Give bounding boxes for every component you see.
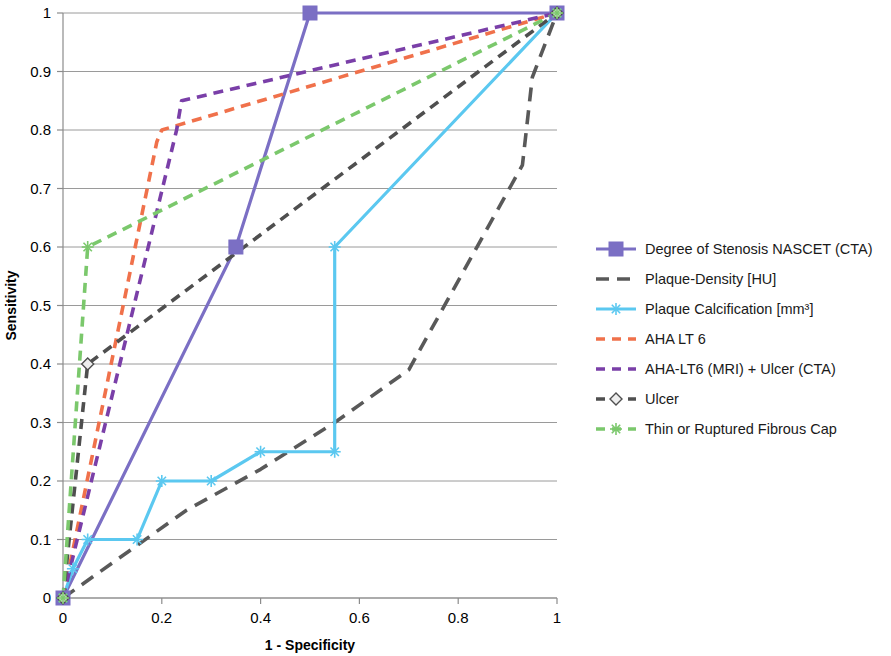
chart-container: 00.20.40.60.81 00.10.20.30.40.50.60.70.8…: [0, 0, 891, 656]
legend-item[interactable]: Plaque-Density [HU]: [596, 271, 776, 287]
y-tick-label: 0.7: [30, 180, 51, 197]
y-tick-label: 0.6: [30, 238, 51, 255]
y-tick-labels: 00.10.20.30.40.50.60.70.80.91: [30, 4, 51, 606]
legend-item-label: Plaque-Density [HU]: [645, 271, 776, 287]
y-tick-label: 0.8: [30, 121, 51, 138]
x-axis-title: 1 - Specificity: [265, 637, 355, 653]
x-tick-label: 0: [59, 609, 67, 626]
x-tick-label: 0.2: [151, 609, 172, 626]
legend-item[interactable]: Thin or Ruptured Fibrous Cap: [596, 421, 837, 437]
legend: Degree of Stenosis NASCET (CTA)Plaque-De…: [596, 241, 873, 437]
legend-item[interactable]: AHA-LT6 (MRI) + Ulcer (CTA): [596, 361, 836, 377]
x-tick-label: 0.6: [349, 609, 370, 626]
marker-star: [82, 241, 94, 253]
y-tick-label: 0.4: [30, 355, 51, 372]
legend-item[interactable]: AHA LT 6: [596, 331, 706, 347]
marker-square: [229, 240, 243, 254]
legend-item[interactable]: Degree of Stenosis NASCET (CTA): [596, 241, 873, 257]
marker-star: [610, 303, 622, 315]
legend-item-label: Degree of Stenosis NASCET (CTA): [645, 241, 873, 257]
marker-star: [156, 475, 168, 487]
y-tick-label: 1: [43, 4, 51, 21]
legend-item-label: AHA LT 6: [645, 331, 706, 347]
y-tick-label: 0: [43, 589, 51, 606]
legend-item-label: AHA-LT6 (MRI) + Ulcer (CTA): [645, 361, 836, 377]
legend-item[interactable]: Plaque Calcification [mm³]: [596, 301, 813, 317]
roc-plot-svg: 00.20.40.60.81 00.10.20.30.40.50.60.70.8…: [0, 0, 891, 656]
y-tick-label: 0.9: [30, 63, 51, 80]
marker-star: [82, 534, 94, 546]
marker-star: [131, 534, 143, 546]
roc-chart-page: 00.20.40.60.81 00.10.20.30.40.50.60.70.8…: [0, 0, 891, 656]
y-tick-label: 0.1: [30, 531, 51, 548]
y-axis-title: Sensitivity: [3, 270, 19, 340]
legend-item-label: Thin or Ruptured Fibrous Cap: [645, 421, 837, 437]
gridlines-group: [63, 13, 557, 598]
y-tick-label: 0.5: [30, 297, 51, 314]
marker-square: [303, 6, 317, 20]
marker-star: [551, 7, 563, 19]
x-tick-label: 1: [553, 609, 561, 626]
marker-star: [329, 446, 341, 458]
marker-star: [57, 592, 69, 604]
marker-star: [610, 423, 622, 435]
marker-star: [255, 446, 267, 458]
legend-item-label: Ulcer: [645, 391, 679, 407]
marker-star: [67, 563, 79, 575]
x-tick-labels: 00.20.40.60.81: [59, 609, 561, 626]
legend-item-label: Plaque Calcification [mm³]: [645, 301, 813, 317]
y-tick-label: 0.2: [30, 472, 51, 489]
marker-diamond: [610, 393, 622, 405]
x-tick-label: 0.4: [250, 609, 271, 626]
marker-star: [205, 475, 217, 487]
marker-square: [609, 242, 623, 256]
y-tick-label: 0.3: [30, 414, 51, 431]
x-tick-label: 0.8: [448, 609, 469, 626]
legend-item[interactable]: Ulcer: [596, 391, 679, 407]
